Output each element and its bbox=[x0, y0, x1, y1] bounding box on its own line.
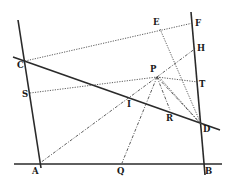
geometry-diagram: ABCDEFHTPSIRQ bbox=[0, 0, 230, 189]
point-label-t: T bbox=[199, 79, 206, 89]
point-label-q: Q bbox=[117, 166, 125, 176]
point-label-s: S bbox=[22, 89, 28, 99]
point-label-c: C bbox=[17, 60, 24, 70]
solid-lines bbox=[13, 12, 222, 175]
point-label-d: D bbox=[203, 124, 211, 134]
point-label-a: A bbox=[31, 166, 39, 176]
point-label-r: R bbox=[166, 113, 174, 123]
point-label-h: H bbox=[197, 43, 205, 53]
point-labels: ABCDEFHTPSIRQ bbox=[17, 17, 212, 176]
point-label-f: F bbox=[195, 18, 201, 28]
right-line-FB bbox=[191, 12, 205, 175]
point-label-e: E bbox=[153, 17, 160, 27]
line-CF bbox=[25, 23, 193, 61]
point-label-i: I bbox=[127, 99, 131, 109]
line-ED bbox=[160, 29, 201, 124]
line-PR bbox=[157, 77, 170, 110]
transversal-CD bbox=[13, 57, 220, 130]
point-label-b: B bbox=[205, 166, 212, 176]
line-PH bbox=[157, 48, 196, 77]
point-label-p: P bbox=[150, 64, 157, 74]
